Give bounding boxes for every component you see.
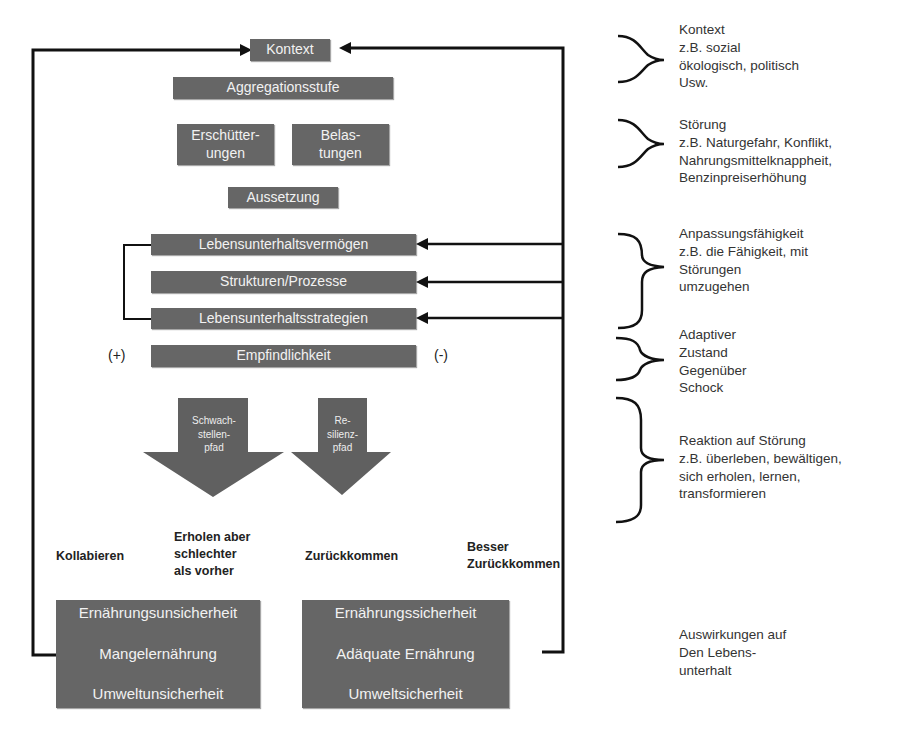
structures-box: Strukturen/Prozesse	[151, 271, 416, 293]
nas-2: Zustand	[679, 344, 747, 362]
note-context: Kontext z.B. sozial ökologisch, politisc…	[679, 21, 799, 92]
assets-box: Lebensunterhaltsvermögen	[151, 234, 416, 255]
resilience-pathway-label: Re- silienz- pfad	[318, 414, 367, 455]
nd-2: z.B. Naturgefahr, Konflikt,	[679, 134, 832, 152]
nr-1: Reaktion auf Störung	[679, 432, 842, 450]
rw-line-3: als vorher	[174, 563, 250, 580]
nd-3: Nahrungsmittelknappheit,	[679, 152, 832, 170]
note-adaptive-state: Adaptiver Zustand Gegenüber Schock	[679, 326, 747, 397]
negative-results-box: Ernährungsunsicherheit Mangelernährung U…	[56, 600, 260, 708]
stresses-line-2: tungen	[319, 145, 362, 163]
rw-line-2: schlechter	[174, 546, 250, 563]
environmental-insecurity: Umweltunsicherheit	[93, 685, 224, 702]
adequate-nutrition: Adäquate Ernährung	[336, 645, 474, 662]
nas-4: Schock	[679, 379, 747, 397]
nd-1: Störung	[679, 116, 832, 134]
note-disturbance: Störung z.B. Naturgefahr, Konflikt, Nahr…	[679, 116, 832, 187]
exposure-box: Aussetzung	[228, 187, 338, 208]
vp-line-2: stellen-	[180, 428, 248, 442]
rp-line-1: Re-	[318, 414, 367, 428]
nc-4: Usw.	[679, 74, 799, 92]
nr-4: transformieren	[679, 485, 842, 503]
sensitivity-box: Empfindlichkeit	[151, 345, 416, 367]
nc-2: z.B. sozial	[679, 39, 799, 57]
food-insecurity: Ernährungsunsicherheit	[79, 604, 237, 621]
ni-1: Auswirkungen auf	[679, 626, 786, 644]
nas-1: Adaptiver	[679, 326, 747, 344]
outcome-collapse: Kollabieren	[56, 548, 124, 565]
stresses-line-1: Belas-	[321, 127, 361, 145]
rp-line-3: pfad	[318, 441, 367, 455]
nc-1: Kontext	[679, 21, 799, 39]
nr-3: sich erholen, lernen,	[679, 468, 842, 486]
ni-3: unterhalt	[679, 662, 786, 680]
outcome-recover-worse: Erholen aber schlechter als vorher	[174, 529, 250, 580]
environmental-security: Umweltsicherheit	[348, 685, 462, 702]
outcome-bounce-back: Zurückkommen	[305, 548, 398, 565]
plus-sign: (+)	[108, 347, 126, 363]
vp-line-3: pfad	[180, 441, 248, 455]
vulnerability-pathway-label: Schwach- stellen- pfad	[180, 414, 248, 455]
nac-4: umzugehen	[679, 278, 808, 296]
strategies-box: Lebensunterhaltsstrategien	[151, 308, 416, 329]
nac-2: z.B. die Fähigkeit, mit	[679, 243, 808, 261]
vp-line-1: Schwach-	[180, 414, 248, 428]
minus-sign: (-)	[434, 347, 448, 363]
rw-line-1: Erholen aber	[174, 529, 250, 546]
food-security: Ernährungssicherheit	[335, 604, 477, 621]
shocks-box: Erschütter- ungen	[177, 124, 274, 165]
malnutrition: Mangelernährung	[99, 645, 217, 662]
nd-4: Benzinpreiserhöhung	[679, 169, 832, 187]
shocks-line-2: ungen	[206, 145, 245, 163]
nas-3: Gegenüber	[679, 362, 747, 380]
positive-results-box: Ernährungssicherheit Adäquate Ernährung …	[302, 600, 509, 708]
aggregation-box: Aggregationsstufe	[173, 77, 393, 99]
nr-2: z.B. überleben, bewältigen,	[679, 450, 842, 468]
note-reaction: Reaktion auf Störung z.B. überleben, bew…	[679, 432, 842, 503]
note-adaptive-capacity: Anpassungsfähigkeit z.B. die Fähigkeit, …	[679, 225, 808, 296]
bb-line-1: Besser	[467, 539, 560, 556]
shocks-line-1: Erschütter-	[191, 127, 259, 145]
rp-line-2: silienz-	[318, 428, 367, 442]
nac-3: Störungen	[679, 261, 808, 279]
context-box: Kontext	[250, 39, 330, 61]
stresses-box: Belas- tungen	[292, 124, 389, 165]
note-impacts: Auswirkungen auf Den Lebens- unterhalt	[679, 626, 786, 679]
ni-2: Den Lebens-	[679, 644, 786, 662]
outcome-bounce-better: Besser Zurückkommen	[467, 539, 560, 573]
nc-3: ökologisch, politisch	[679, 57, 799, 75]
bb-line-2: Zurückkommen	[467, 556, 560, 573]
nac-1: Anpassungsfähigkeit	[679, 225, 808, 243]
